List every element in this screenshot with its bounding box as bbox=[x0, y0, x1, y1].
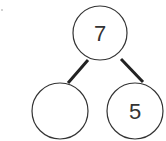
number-bond-diagram: 7 5 bbox=[0, 0, 166, 141]
part-right-value: 5 bbox=[129, 99, 141, 124]
part-left-circle bbox=[32, 83, 88, 139]
whole-circle: 7 bbox=[73, 6, 127, 60]
artifact-dot bbox=[1, 9, 3, 11]
connector-right bbox=[121, 59, 143, 82]
whole-value: 7 bbox=[94, 21, 106, 46]
part-right-circle: 5 bbox=[107, 83, 163, 139]
connector-left bbox=[68, 60, 88, 83]
